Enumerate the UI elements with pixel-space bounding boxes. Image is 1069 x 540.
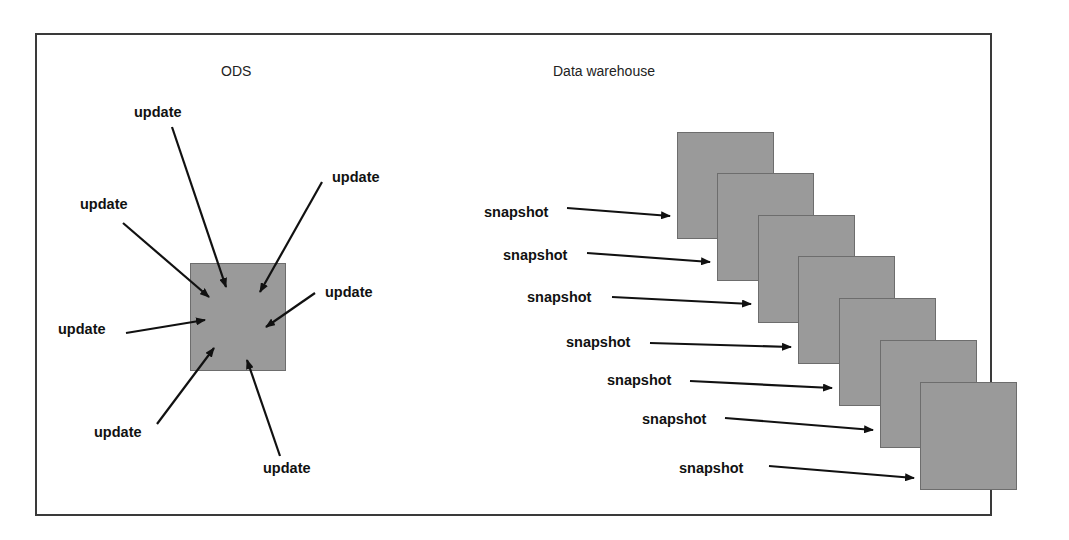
snapshot-label-4: snapshot bbox=[566, 334, 630, 350]
snapshot-label-6: snapshot bbox=[642, 411, 706, 427]
snapshot-label-5: snapshot bbox=[607, 372, 671, 388]
snapshot-label-2: snapshot bbox=[503, 247, 567, 263]
snapshot-label-3: snapshot bbox=[527, 289, 591, 305]
update-label-right: update bbox=[325, 284, 373, 300]
ods-box bbox=[190, 263, 286, 371]
update-label-top: update bbox=[134, 104, 182, 120]
ods-title: ODS bbox=[221, 63, 251, 79]
update-label-left: update bbox=[58, 321, 106, 337]
snapshot-box-7 bbox=[920, 382, 1017, 490]
snapshot-label-1: snapshot bbox=[484, 204, 548, 220]
update-label-upper-left: update bbox=[80, 196, 128, 212]
warehouse-title: Data warehouse bbox=[553, 63, 655, 79]
update-label-upper-right: update bbox=[332, 169, 380, 185]
update-label-bottom: update bbox=[263, 460, 311, 476]
update-label-lower-left: update bbox=[94, 424, 142, 440]
snapshot-label-7: snapshot bbox=[679, 460, 743, 476]
